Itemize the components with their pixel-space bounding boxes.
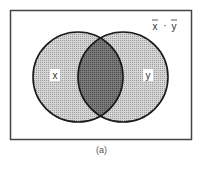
set-x-label: x: [50, 69, 60, 81]
svg-text:x: x: [53, 70, 58, 81]
svg-text:y: y: [172, 21, 177, 32]
set-y-label: y: [143, 69, 153, 81]
svg-text:y: y: [146, 70, 151, 81]
svg-text:x: x: [153, 21, 158, 32]
svg-text:·: ·: [163, 20, 166, 31]
complement-label: x · y: [152, 20, 177, 32]
figure-caption: (a): [0, 145, 203, 155]
